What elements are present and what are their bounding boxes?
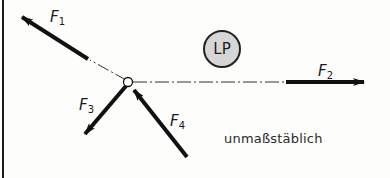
f3-label: F3 (79, 98, 94, 115)
force-f1 (22, 17, 126, 80)
f1-label-name: F (50, 8, 59, 26)
f2-label: F2 (318, 64, 333, 81)
scale-note: unmaßstäblich (224, 131, 323, 146)
f3-label-sub: 3 (88, 104, 94, 115)
f3-label-name: F (79, 96, 88, 114)
f1-line-of-action (90, 60, 126, 80)
f1-label-sub: 1 (59, 16, 65, 27)
f4-label-name: F (170, 112, 179, 130)
f4-label-sub: 4 (179, 120, 185, 131)
f1-label: F1 (50, 10, 65, 27)
f4-label: F4 (170, 114, 185, 131)
f2-label-sub: 2 (327, 70, 333, 81)
diagram-canvas: LP F1 F2 F3 F4 unmaßstäblich (0, 0, 390, 178)
f2-label-name: F (318, 62, 327, 80)
junction-node (124, 78, 133, 87)
lp-marker-label: LP (203, 38, 241, 60)
